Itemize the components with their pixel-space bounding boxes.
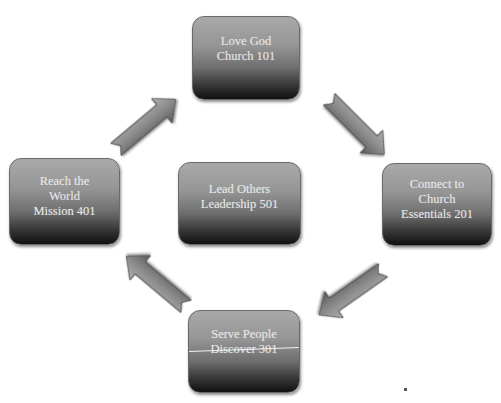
node-label-line: Leadership 501 — [201, 197, 278, 212]
node-label-line: Love God — [221, 34, 271, 49]
node-label-line: Church 101 — [217, 49, 276, 64]
node-connect-to-church: Connect to Church Essentials 201 — [382, 163, 492, 246]
node-label-line: Reach the — [40, 174, 90, 189]
stray-dot — [404, 388, 407, 391]
node-label-line: Church — [419, 192, 456, 207]
node-reach-the-world: Reach the World Mission 401 — [9, 158, 120, 245]
node-serve-people: Serve People Discover 301 — [188, 310, 300, 393]
node-label-line: World — [49, 189, 80, 204]
arrow-right-to-bottom-icon — [316, 262, 388, 322]
node-label-line: Connect to — [410, 177, 465, 192]
arrow-top-to-right-icon — [322, 90, 390, 162]
node-lead-others: Lead Others Leadership 501 — [178, 162, 301, 245]
arrow-left-to-top-icon — [110, 92, 180, 158]
node-label-line: Essentials 201 — [401, 207, 473, 222]
node-label-line: Mission 401 — [33, 204, 95, 219]
node-love-god: Love God Church 101 — [192, 16, 300, 100]
node-label-line: Lead Others — [209, 182, 270, 197]
arrow-bottom-to-left-icon — [122, 250, 192, 314]
node-label-line: Serve People — [211, 327, 277, 342]
